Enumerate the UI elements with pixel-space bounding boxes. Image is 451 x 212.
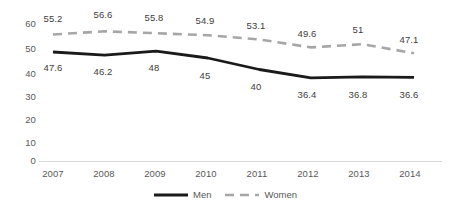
data-label-men-2008: 46.2: [83, 66, 123, 77]
data-label-women-2009: 55.8: [134, 12, 174, 23]
x-axis-tick-2012: 2012: [285, 168, 331, 179]
x-axis-tick-2013: 2013: [336, 168, 382, 179]
legend-item-men[interactable]: Men: [154, 189, 211, 200]
data-label-men-2013: 36.8: [338, 89, 378, 100]
data-label-women-2007: 55.2: [33, 13, 73, 24]
data-label-women-2008: 56.6: [83, 9, 123, 20]
data-label-women-2014: 47.1: [389, 34, 429, 45]
plot-area: [0, 0, 451, 212]
chart-legend: Men Women: [0, 189, 451, 200]
x-axis-tick-2007: 2007: [30, 168, 76, 179]
data-label-women-2011: 53.1: [236, 20, 276, 31]
legend-label-women: Women: [264, 189, 297, 200]
line-chart: 60 50 40 30 20 10 0 55.2 56.6 55.8 54.9 …: [0, 0, 451, 212]
data-label-men-2014: 36.6: [389, 89, 429, 100]
data-label-men-2009: 48: [134, 62, 174, 73]
data-label-men-2010: 45: [185, 70, 225, 81]
data-label-men-2011: 40: [236, 81, 276, 92]
x-axis-tick-2011: 2011: [234, 168, 280, 179]
data-label-women-2012: 49.6: [287, 28, 327, 39]
x-axis-tick-2014: 2014: [387, 168, 433, 179]
x-axis-tick-2009: 2009: [132, 168, 178, 179]
data-label-women-2010: 54.9: [185, 15, 225, 26]
legend-swatch-women-dashed-line: [225, 190, 259, 200]
x-axis-tick-2008: 2008: [81, 168, 127, 179]
data-label-men-2007: 47.6: [33, 62, 73, 73]
legend-item-women[interactable]: Women: [225, 189, 297, 200]
data-label-men-2012: 36.4: [287, 89, 327, 100]
legend-swatch-men-solid-line: [154, 190, 188, 200]
legend-label-men: Men: [193, 189, 211, 200]
x-axis-tick-2010: 2010: [183, 168, 229, 179]
data-label-women-2013: 51: [338, 24, 378, 35]
